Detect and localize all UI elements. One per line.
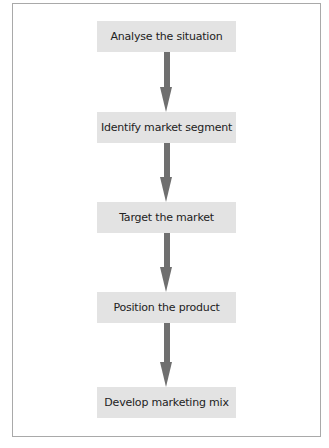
arrow-down-icon	[160, 323, 173, 387]
arrow-down-icon	[160, 143, 173, 202]
step-target-market: Target the market	[97, 202, 236, 233]
arrow-down-icon	[160, 233, 173, 292]
step-label: Identify market segment	[101, 121, 232, 134]
arrow-down-icon	[160, 52, 173, 112]
step-develop-marketing-mix: Develop marketing mix	[97, 387, 236, 418]
step-label: Develop marketing mix	[104, 396, 228, 409]
step-label: Position the product	[113, 301, 219, 314]
step-analyse-situation: Analyse the situation	[97, 21, 236, 52]
step-position-product: Position the product	[97, 292, 236, 323]
step-label: Target the market	[119, 211, 214, 224]
step-label: Analyse the situation	[110, 30, 222, 43]
step-identify-segment: Identify market segment	[97, 112, 236, 143]
